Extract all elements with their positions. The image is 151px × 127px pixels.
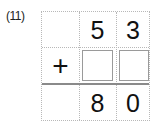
digit-result-tens: 8 bbox=[79, 85, 116, 121]
answer-box-tens[interactable] bbox=[82, 50, 113, 81]
cell-r1-hundreds bbox=[42, 12, 79, 48]
plus-operator: + bbox=[42, 48, 79, 84]
vertical-addition-grid: 5 3 + 8 0 bbox=[41, 11, 150, 121]
digit-top-tens: 5 bbox=[79, 12, 116, 48]
answer-box-ones[interactable] bbox=[119, 50, 149, 81]
digit-result-ones: 0 bbox=[116, 85, 150, 121]
digit-top-ones: 3 bbox=[116, 12, 150, 48]
cell-r3-hundreds bbox=[42, 85, 79, 121]
problem-number-label: (11) bbox=[6, 9, 24, 23]
